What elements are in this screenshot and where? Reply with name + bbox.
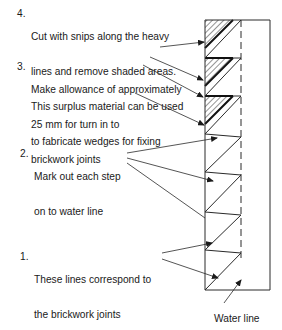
leader-arrows <box>127 42 241 303</box>
flashing-diagram <box>0 0 282 330</box>
